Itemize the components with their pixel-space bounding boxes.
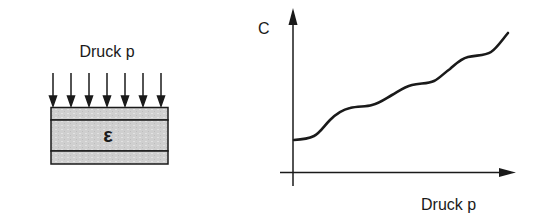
arrow-down-icon — [68, 73, 75, 106]
x-axis-label: Druck p — [421, 196, 476, 213]
arrow-down-icon — [104, 73, 111, 106]
arrow-down-icon — [86, 73, 93, 106]
pressure-arrows — [50, 73, 165, 106]
bottom-electrode — [51, 151, 168, 164]
capacitance-graph: C Druck p — [258, 8, 516, 213]
arrow-right-icon — [499, 168, 516, 177]
capacitor-figure: Druck p ε — [50, 43, 169, 164]
dielectric-symbol: ε — [103, 124, 113, 146]
arrow-down-icon — [50, 73, 57, 106]
arrow-down-icon — [158, 73, 165, 106]
capacitor-layers: ε — [51, 108, 168, 165]
arrow-down-icon — [140, 73, 147, 106]
y-axis — [289, 8, 298, 186]
x-axis — [280, 168, 516, 177]
pressure-label: Druck p — [79, 43, 134, 60]
y-axis-label: C — [258, 20, 270, 37]
diagram-canvas: Druck p ε C Druck p — [0, 0, 533, 221]
arrow-up-icon — [289, 8, 298, 25]
arrow-down-icon — [122, 73, 129, 106]
capacitance-curve — [294, 33, 508, 140]
top-electrode — [51, 108, 168, 121]
